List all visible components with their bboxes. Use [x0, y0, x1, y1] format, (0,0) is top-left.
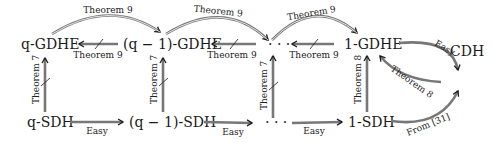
- edge-label: Easy: [86, 126, 109, 136]
- vert-arrow-4: Theorem 8: [353, 54, 367, 112]
- back-arrow-3: Theorem 9: [289, 39, 339, 60]
- arc-1sdh-to-cdh: From [31]: [391, 91, 458, 138]
- node-1-sdh: 1-SDH: [348, 114, 395, 130]
- vert-arrow-2: Theorem 7: [149, 54, 168, 112]
- easy-arrow-3: Easy: [292, 122, 342, 136]
- edge-label: Theorem 9: [286, 4, 337, 22]
- node-dots-bottom: · · ·: [265, 114, 287, 130]
- arc-cdh-to-1gdhe: Theorem 8: [380, 56, 441, 100]
- edge-label: Theorem 7: [259, 60, 269, 110]
- arc-qm1gdhe-to-dots: Theorem 9: [166, 3, 268, 40]
- node-dots-top: · · ·: [268, 36, 290, 52]
- node-qm1-sdh: (q − 1)-SDH: [129, 114, 216, 130]
- edge-label: Theorem 9: [73, 50, 123, 60]
- edge-label: From [31]: [405, 111, 451, 137]
- easy-arrow-1: Easy: [70, 122, 123, 136]
- node-q-gdhe: q-GDHE: [21, 36, 80, 52]
- edge-label: Theorem 8: [353, 54, 363, 104]
- edge-label: Theorem 7: [31, 54, 41, 104]
- vert-arrow-3: Theorem 7: [259, 56, 278, 118]
- edge-label: Theorem 9: [207, 50, 257, 60]
- node-q-sdh: q-SDH: [27, 114, 74, 130]
- edge-label: Theorem 9: [83, 5, 133, 15]
- edge-label: Easy: [222, 127, 245, 137]
- arc-qgdhe-to-qm1gdhe: Theorem 9: [52, 5, 160, 34]
- reduction-diagram: Theorem 9 Theorem 9 Theorem 9 q-GDHE (q …: [0, 0, 496, 145]
- edge-label: Theorem 9: [289, 50, 339, 60]
- edge-label: Easy: [303, 126, 326, 136]
- edge-label: Theorem 7: [149, 54, 159, 104]
- back-arrow-1: Theorem 9: [73, 39, 123, 60]
- vert-arrow-1: Theorem 7: [31, 54, 50, 112]
- arc-dots-to-1gdhe: Theorem 9: [272, 4, 357, 40]
- node-1-gdhe: 1-GDHE: [344, 36, 402, 52]
